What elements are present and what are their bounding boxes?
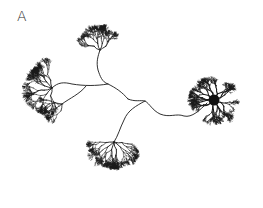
neuron-drawing <box>0 0 263 208</box>
axon-process <box>52 50 207 142</box>
soma <box>209 95 220 106</box>
dendritic-arbors <box>22 25 239 171</box>
